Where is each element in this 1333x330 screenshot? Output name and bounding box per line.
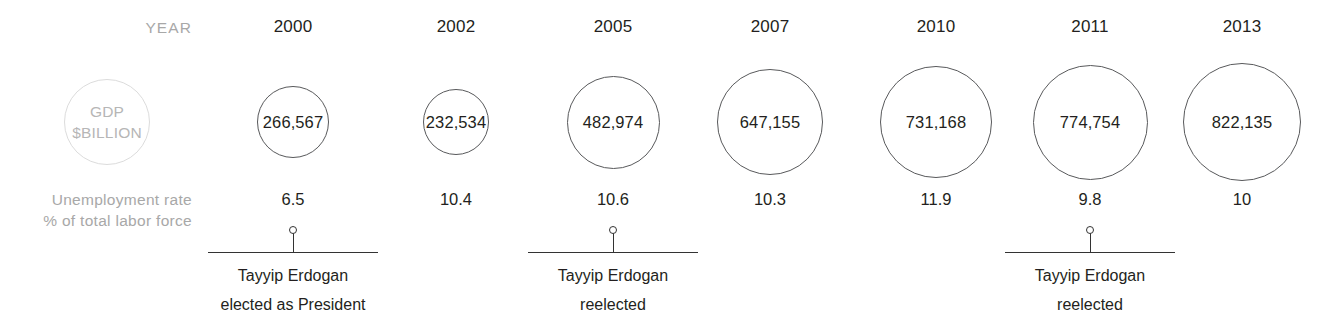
infographic-canvas: YEAR GDP $BILLION Unemployment rate % of… <box>0 0 1333 330</box>
unemployment-row-label: Unemployment rate % of total labor force <box>0 189 192 231</box>
unemployment-value: 10.3 <box>700 190 840 209</box>
annotation-caption-line-1: Tayyip Erdogan <box>980 261 1200 290</box>
annotation-marker-icon <box>289 226 297 234</box>
annotation-caption-line-1: Tayyip Erdogan <box>183 261 403 290</box>
year-heading: 2005 <box>543 17 683 37</box>
gdp-value: 731,168 <box>906 113 966 132</box>
gdp-value: 232,534 <box>426 113 486 132</box>
unemployment-label-line-1: Unemployment rate <box>0 189 192 210</box>
annotation-caption-line-2: reelected <box>980 290 1200 319</box>
year-heading: 2013 <box>1172 17 1312 37</box>
gdp-bubble: 482,974 <box>567 76 660 169</box>
unemployment-label-line-2: % of total labor force <box>0 210 192 231</box>
gdp-bubble: 232,534 <box>423 89 489 155</box>
annotation-marker-icon <box>609 226 617 234</box>
annotation-caption-line-1: Tayyip Erdogan <box>503 261 723 290</box>
annotation-caption: Tayyip Erdoganreelected <box>503 261 723 319</box>
gdp-value: 774,754 <box>1060 113 1120 132</box>
annotation-caption-line-2: elected as President <box>183 290 403 319</box>
gdp-legend-line-2: $BILLION <box>72 122 142 143</box>
year-row-label: YEAR <box>0 19 192 37</box>
year-heading: 2000 <box>223 17 363 37</box>
annotation-caption: Tayyip Erdoganreelected <box>980 261 1200 319</box>
gdp-legend-line-1: GDP <box>90 101 124 122</box>
year-heading: 2002 <box>386 17 526 37</box>
unemployment-value: 10 <box>1172 190 1312 209</box>
year-heading: 2007 <box>700 17 840 37</box>
unemployment-value: 10.6 <box>543 190 683 209</box>
unemployment-value: 11.9 <box>866 190 1006 209</box>
gdp-value: 266,567 <box>263 113 323 132</box>
gdp-value: 822,135 <box>1212 113 1272 132</box>
gdp-value: 482,974 <box>583 113 643 132</box>
annotation-stem <box>613 233 614 253</box>
gdp-value: 647,155 <box>740 113 800 132</box>
gdp-bubble: 266,567 <box>257 86 329 158</box>
year-heading: 2011 <box>1020 17 1160 37</box>
gdp-bubble: 822,135 <box>1183 63 1301 181</box>
annotation-caption-line-2: reelected <box>503 290 723 319</box>
unemployment-value: 6.5 <box>223 190 363 209</box>
annotation-stem <box>1090 233 1091 253</box>
gdp-bubble: 731,168 <box>880 66 992 178</box>
annotation-marker-icon <box>1086 226 1094 234</box>
annotation-caption: Tayyip Erdoganelected as President <box>183 261 403 319</box>
unemployment-value: 10.4 <box>386 190 526 209</box>
unemployment-value: 9.8 <box>1020 190 1160 209</box>
annotation-stem <box>293 233 294 253</box>
gdp-bubble: 647,155 <box>717 69 823 175</box>
gdp-bubble: 774,754 <box>1033 65 1148 180</box>
gdp-legend-bubble: GDP $BILLION <box>64 79 150 165</box>
year-heading: 2010 <box>866 17 1006 37</box>
